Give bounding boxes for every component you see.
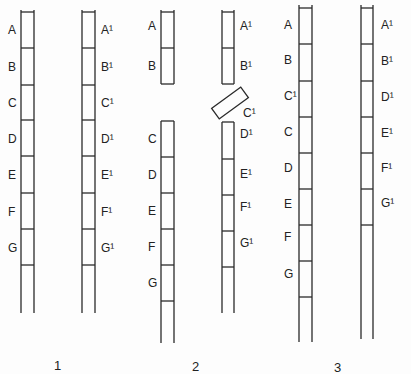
diagram-svg: A B C D E F G A¹ B¹ C¹ D¹ E¹ F¹ G¹ xyxy=(0,0,411,374)
fragment-g2-right-bottom: D¹ E¹ F¹ G¹ xyxy=(222,122,253,313)
segment-label: F¹ xyxy=(101,205,112,219)
segment-label: D xyxy=(284,161,293,175)
segment-label: D¹ xyxy=(381,90,394,104)
segment-label: A¹ xyxy=(381,18,393,32)
segment-label: G xyxy=(8,241,17,255)
segment-label: B¹ xyxy=(240,59,252,73)
fragment-g2-left-bottom: C D E F G xyxy=(148,121,174,343)
segment-label: F xyxy=(284,230,291,244)
segment-label: B xyxy=(8,60,16,74)
chromosome-g3-left: A B C¹ C D E F G xyxy=(284,5,312,342)
segment-label: A¹ xyxy=(101,23,113,37)
segment-label: D¹ xyxy=(240,127,253,141)
group-2: A B C D E F G A¹ B¹ xyxy=(148,10,256,374)
segment-label: G xyxy=(148,276,157,290)
segment-label: G¹ xyxy=(240,236,253,250)
segment-label: B¹ xyxy=(381,54,393,68)
segment-label: D xyxy=(148,168,157,182)
segment-label: E xyxy=(8,168,16,182)
segment-label: C xyxy=(8,96,17,110)
segment-label: C¹ xyxy=(284,89,297,103)
segment-label: G¹ xyxy=(381,196,394,210)
segment-label: E¹ xyxy=(101,168,113,182)
segment-label: C xyxy=(284,125,293,139)
segment-label: A¹ xyxy=(240,19,252,33)
group-number: 1 xyxy=(54,358,61,373)
segment-label: C xyxy=(148,132,157,146)
segment-label: F xyxy=(148,240,155,254)
segment-label: D xyxy=(8,132,17,146)
segment-label: C¹ xyxy=(101,96,114,110)
fragment-g2-left-top: A B xyxy=(148,10,174,84)
segment-label: G¹ xyxy=(101,241,114,255)
group-3: A B C¹ C D E F G A¹ B¹ D¹ E¹ F¹ G¹ xyxy=(284,5,394,374)
segment-label: F¹ xyxy=(240,200,251,214)
segment-label: B¹ xyxy=(101,60,113,74)
segment-label: E¹ xyxy=(381,126,393,140)
segment-label: E xyxy=(284,197,292,211)
segment-label: A xyxy=(284,18,292,32)
fragment-g2-right-top: A¹ B¹ xyxy=(222,10,252,84)
segment-label: E xyxy=(148,204,156,218)
segment-label: F xyxy=(8,205,15,219)
segment-label: A xyxy=(8,23,16,37)
group-number: 2 xyxy=(192,359,199,374)
chromosome-g3-right: A¹ B¹ D¹ E¹ F¹ G¹ xyxy=(361,5,394,339)
segment-label: E¹ xyxy=(240,167,252,181)
segment-label: C¹ xyxy=(243,106,256,120)
segment-label: A xyxy=(148,19,156,33)
chromosome-g1-left: A B C D E F G xyxy=(8,10,34,313)
segment-label: D¹ xyxy=(101,132,114,146)
segment-label: B xyxy=(148,59,156,73)
chromosome-diagram: A B C D E F G A¹ B¹ C¹ D¹ E¹ F¹ G¹ xyxy=(0,0,411,374)
group-number: 3 xyxy=(334,360,341,374)
segment-label: G xyxy=(284,267,293,281)
group-1: A B C D E F G A¹ B¹ C¹ D¹ E¹ F¹ G¹ xyxy=(8,10,114,373)
chromosome-g1-right: A¹ B¹ C¹ D¹ E¹ F¹ G¹ xyxy=(82,10,114,313)
segment-label: B xyxy=(284,53,292,67)
segment-label: F¹ xyxy=(381,161,392,175)
fragment-g2-c-prime: C¹ xyxy=(212,87,256,120)
